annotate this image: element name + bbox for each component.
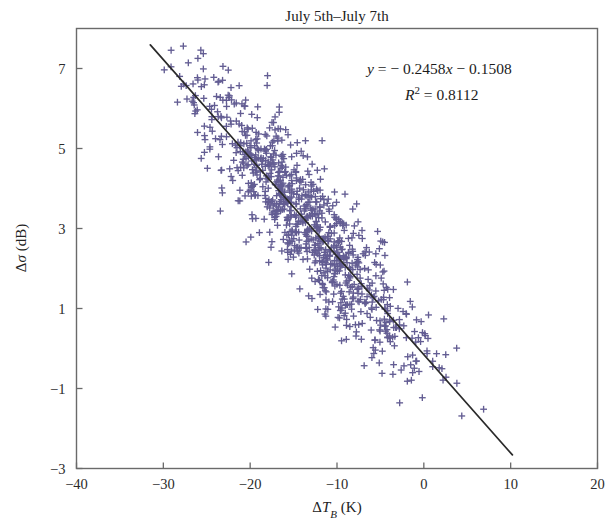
y-tick-label: 7	[58, 61, 65, 77]
x-tick-label: −20	[239, 476, 262, 492]
scatter-marker	[349, 234, 356, 241]
scatter-marker	[379, 370, 386, 377]
scatter-marker	[200, 95, 207, 102]
scatter-marker	[368, 327, 375, 334]
scatter-marker	[364, 310, 371, 317]
scatter-marker	[212, 135, 219, 142]
scatter-marker	[379, 269, 386, 276]
scatter-marker	[294, 139, 301, 146]
scatter-marker	[230, 157, 237, 164]
scatter-marker	[200, 66, 207, 73]
x-tick-label: 0	[420, 476, 427, 492]
x-tick-label: 20	[590, 476, 605, 492]
scatter-marker	[409, 352, 416, 359]
scatter-marker	[353, 333, 360, 340]
scatter-marker	[168, 47, 175, 54]
scatter-marker	[283, 222, 290, 229]
scatter-marker	[322, 219, 329, 226]
scatter-marker	[367, 314, 374, 321]
scatter-marker	[256, 229, 263, 236]
scatter-marker	[359, 320, 366, 327]
scatter-marker	[408, 377, 415, 384]
scatter-marker	[480, 406, 487, 413]
scatter-marker	[343, 322, 350, 329]
scatter-marker	[202, 76, 209, 83]
x-axis-label: ΔTB (K)	[312, 499, 361, 520]
scatter-marker	[198, 155, 205, 162]
scatter-marker	[202, 136, 209, 143]
plot-canvas: July 5th–July 7th −40−30−20−1001020 7531…	[0, 0, 608, 529]
scatter-marker	[263, 133, 270, 140]
scatter-marker	[242, 193, 249, 200]
scatter-marker	[194, 129, 201, 136]
scatter-marker	[276, 109, 283, 116]
scatter-marker	[218, 133, 225, 140]
scatter-marker	[239, 172, 246, 179]
scatter-marker	[358, 336, 365, 343]
scatter-marker	[404, 279, 411, 286]
scatter-marker	[264, 72, 271, 79]
scatter-marker	[413, 358, 420, 365]
scatter-marker	[254, 135, 261, 142]
scatter-marker	[161, 66, 168, 73]
scatter-marker	[280, 236, 287, 243]
scatter-marker	[237, 187, 244, 194]
scatter-marker	[229, 177, 236, 184]
scatter-marker	[270, 119, 277, 126]
scatter-marker	[355, 321, 362, 328]
scatter-marker	[215, 153, 222, 160]
scatter-marker	[223, 114, 230, 121]
scatter-marker	[268, 244, 275, 251]
scatter-marker	[404, 378, 411, 385]
scatter-marker	[236, 82, 243, 89]
scatter-marker	[362, 300, 369, 307]
scatter-marker	[321, 165, 328, 172]
scatter-marker	[353, 201, 360, 208]
scatter-marker	[411, 328, 418, 335]
scatter-marker	[359, 227, 366, 234]
scatter-marker	[287, 142, 294, 149]
scatter-marker	[233, 149, 240, 156]
scatter-marker	[288, 153, 295, 160]
scatter-marker	[304, 256, 311, 263]
scatter-marker	[261, 216, 268, 223]
scatter-marker	[248, 111, 255, 118]
scatter-marker	[257, 175, 264, 182]
regression-line	[150, 45, 512, 455]
scatter-marker	[372, 288, 379, 295]
scatter-marker	[349, 206, 356, 213]
scatter-marker	[201, 123, 208, 130]
scatter-marker	[396, 399, 403, 406]
scatter-marker	[395, 305, 402, 312]
scatter-marker	[314, 306, 321, 313]
scatter-marker	[302, 137, 309, 144]
scatter-marker	[419, 394, 426, 401]
scatter-marker	[380, 280, 387, 287]
scatter-marker	[458, 413, 465, 420]
scatter-marker	[314, 167, 321, 174]
scatter-marker	[254, 103, 261, 110]
scatter-marker	[330, 291, 337, 298]
scatter-marker	[228, 84, 235, 91]
scatter-marker	[242, 97, 249, 104]
r-squared-annotation: R2 = 0.8112	[404, 84, 479, 103]
y-tick-label: −1	[50, 381, 65, 397]
scatter-marker	[351, 223, 358, 230]
scatter-marker	[264, 82, 271, 89]
x-tick-label: −40	[65, 476, 88, 492]
scatter-marker	[288, 270, 295, 277]
scatter-marker	[201, 149, 208, 156]
scatter-marker	[342, 191, 349, 198]
scatter-marker	[407, 361, 414, 368]
scatter-marker	[218, 167, 225, 174]
x-tick-label: −30	[152, 476, 175, 492]
scatter-marker	[262, 131, 269, 138]
scatter-marker	[433, 350, 440, 357]
scatter-marker	[355, 218, 362, 225]
y-tick-label: 1	[58, 301, 65, 317]
chart-title: July 5th–July 7th	[285, 8, 389, 24]
scatter-marker	[296, 285, 303, 292]
scatter-marker	[425, 312, 432, 319]
scatter-marker	[365, 266, 372, 273]
scatter-marker	[218, 185, 225, 192]
